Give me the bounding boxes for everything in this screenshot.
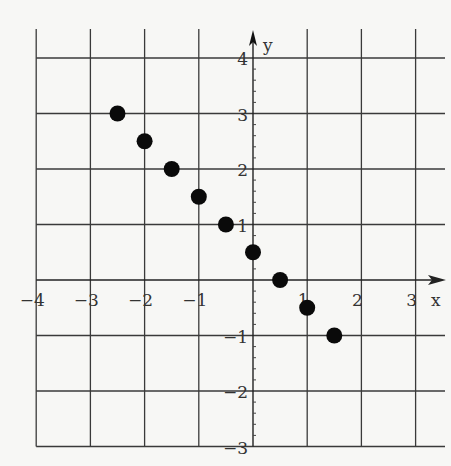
x-tick-label: −1 — [182, 290, 207, 310]
y-axis-label: y — [262, 35, 273, 55]
data-point — [110, 106, 126, 122]
data-point — [272, 272, 288, 288]
y-tick-label: 4 — [237, 49, 248, 69]
y-tick-label: 3 — [237, 105, 248, 125]
data-point — [137, 133, 153, 149]
y-tick-label: 2 — [237, 160, 248, 180]
x-tick-label: −3 — [74, 290, 99, 310]
data-point — [191, 189, 207, 205]
y-tick-label: −3 — [223, 438, 248, 458]
y-tick-label: −1 — [223, 327, 248, 347]
x-axis-label: x — [431, 290, 441, 310]
x-tick-label: −4 — [20, 290, 45, 310]
x-tick-label: 2 — [352, 290, 363, 310]
data-point — [326, 328, 342, 344]
data-point — [218, 217, 234, 233]
data-point — [245, 244, 261, 260]
x-tick-label: 3 — [406, 290, 417, 310]
tick-labels: −4−3−2−11234321−1−2−3 — [20, 49, 417, 458]
y-tick-label: 1 — [237, 216, 248, 236]
y-tick-label: −2 — [223, 382, 248, 402]
data-point — [299, 300, 315, 316]
data-point — [164, 161, 180, 177]
x-tick-label: −2 — [128, 290, 153, 310]
scatter-chart: −4−3−2−11234321−1−2−3 x y — [0, 0, 451, 466]
